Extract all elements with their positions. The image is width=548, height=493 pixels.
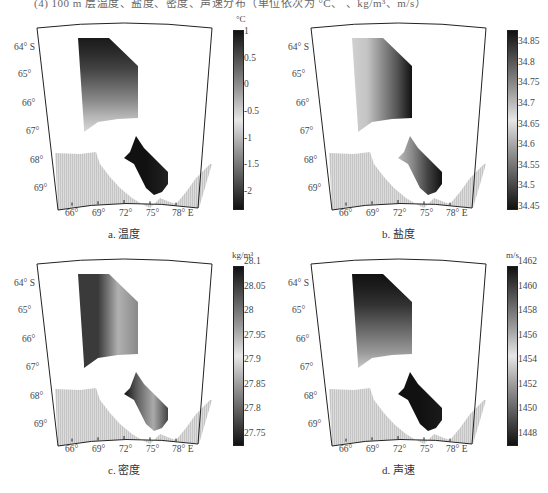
panel-caption: b. 盐度 — [382, 225, 415, 241]
lon-label: 72° — [119, 208, 132, 218]
lon-label: 66° — [339, 208, 352, 218]
colorbar-tick-label: 27.9 — [244, 354, 261, 364]
lat-label: 64° S — [288, 278, 309, 288]
lon-label: 78° E — [446, 444, 467, 454]
colorbar-tick-label: 1450 — [518, 403, 537, 413]
lat-label: 68° — [30, 391, 43, 401]
lat-label: 66° — [296, 334, 309, 344]
lon-label: 72° — [393, 444, 406, 454]
lon-label: 78° E — [172, 444, 193, 454]
colorbar-tick-label: 34.45 — [518, 201, 539, 211]
colorbar-tick-label: 34.65 — [518, 119, 539, 129]
lon-label: 78° E — [446, 208, 467, 218]
lat-label: 67° — [300, 362, 313, 372]
map-panel-c: 64° S65°66°67°68°69°66°69°72°75°78° Ec. … — [0, 248, 274, 493]
lon-label: 75° — [420, 444, 433, 454]
colorbar-tick-label: 34.85 — [518, 36, 539, 46]
lat-label: 67° — [26, 126, 39, 136]
colorbar-tick-label: 27.75 — [244, 428, 265, 438]
lat-label: 65° — [292, 305, 305, 315]
offshore-data-region — [78, 38, 138, 132]
lon-label: 75° — [420, 208, 433, 218]
colorbar — [507, 266, 518, 446]
lon-label: 78° E — [172, 208, 193, 218]
colorbar-tick-label: 27.85 — [244, 379, 265, 389]
map-panel-a: 64° S65°66°67°68°69°66°69°72°75°78° Ea. … — [0, 12, 274, 258]
panel-caption: c. 密度 — [108, 461, 140, 477]
panel-caption: a. 温度 — [108, 225, 140, 241]
lat-label: 64° S — [288, 42, 309, 52]
colorbar-tick-label: 28.1 — [244, 256, 261, 266]
colorbar-tick-label: -2 — [244, 186, 252, 196]
lat-label: 66° — [22, 334, 35, 344]
colorbar — [233, 266, 244, 446]
colorbar-tick-label: 28 — [244, 305, 254, 315]
colorbar-tick-label: 34.75 — [518, 77, 539, 87]
colorbar-tick-label: 1448 — [518, 428, 537, 438]
colorbar-tick-label: 1458 — [518, 305, 537, 315]
colorbar-tick-label: 34.7 — [518, 98, 535, 108]
panel-caption: d. 声速 — [382, 461, 415, 477]
colorbar-tick-label: -1.5 — [244, 159, 259, 169]
colorbar-tick-label: 1452 — [518, 379, 537, 389]
lat-label: 64° S — [14, 278, 35, 288]
coastal-data-region — [124, 372, 168, 431]
lat-label: 68° — [304, 155, 317, 165]
colorbar-tick-label: 27.95 — [244, 330, 265, 340]
lat-label: 67° — [26, 362, 39, 372]
lat-label: 65° — [18, 69, 31, 79]
colorbar-tick-label: 1456 — [518, 330, 537, 340]
lat-label: 64° S — [14, 42, 35, 52]
lat-label: 69° — [308, 183, 321, 193]
colorbar-tick-label: 1454 — [518, 354, 537, 364]
lat-label: 69° — [34, 183, 47, 193]
colorbar-tick-label: 34.8 — [518, 57, 535, 67]
colorbar-tick-label: 28.05 — [244, 281, 265, 291]
lon-label: 75° — [146, 444, 159, 454]
lat-label: 65° — [18, 305, 31, 315]
lat-label: 66° — [296, 98, 309, 108]
colorbar-tick-label: 0 — [244, 79, 249, 89]
lon-label: 66° — [65, 208, 78, 218]
lat-label: 68° — [304, 391, 317, 401]
colorbar-tick-label: 34.55 — [518, 160, 539, 170]
colorbar — [507, 30, 518, 210]
colorbar-tick-label: -0.5 — [244, 106, 259, 116]
lat-label: 67° — [300, 126, 313, 136]
colorbar-tick-label: 1462 — [518, 256, 537, 266]
colorbar-tick-label: 27.8 — [244, 403, 261, 413]
colorbar-tick-label: 1460 — [518, 281, 537, 291]
coastal-data-region — [124, 136, 168, 195]
lon-label: 66° — [65, 444, 78, 454]
lat-label: 68° — [30, 155, 43, 165]
lat-label: 65° — [292, 69, 305, 79]
lon-label: 69° — [366, 444, 379, 454]
lon-label: 75° — [146, 208, 159, 218]
colorbar-unit: °C — [236, 14, 246, 24]
offshore-data-region — [352, 38, 412, 132]
lat-label: 69° — [34, 419, 47, 429]
offshore-data-region — [352, 274, 412, 368]
colorbar — [233, 30, 244, 210]
lon-label: 69° — [92, 208, 105, 218]
header-text: (4) 100 m 层温度、盐度、密度、声速分布（单位依次为 °C、 、kg/m… — [34, 0, 426, 10]
lon-label: 69° — [92, 444, 105, 454]
lon-label: 66° — [339, 444, 352, 454]
coastal-data-region — [398, 136, 442, 195]
colorbar-tick-label: 34.5 — [518, 180, 535, 190]
colorbar-tick-label: -1 — [244, 133, 252, 143]
lon-label: 72° — [393, 208, 406, 218]
offshore-data-region — [78, 274, 138, 368]
colorbar-tick-label: 0.5 — [244, 53, 256, 63]
lat-label: 69° — [308, 419, 321, 429]
colorbar-tick-label: 34.6 — [518, 139, 535, 149]
map-panel-b: 64° S65°66°67°68°69°66°69°72°75°78° Eb. … — [274, 12, 548, 258]
colorbar-tick-label: 1 — [244, 26, 249, 36]
lon-label: 72° — [119, 444, 132, 454]
lon-label: 69° — [366, 208, 379, 218]
map-panel-d: 64° S65°66°67°68°69°66°69°72°75°78° Ed. … — [274, 248, 548, 493]
coastal-data-region — [398, 372, 442, 431]
lat-label: 66° — [22, 98, 35, 108]
